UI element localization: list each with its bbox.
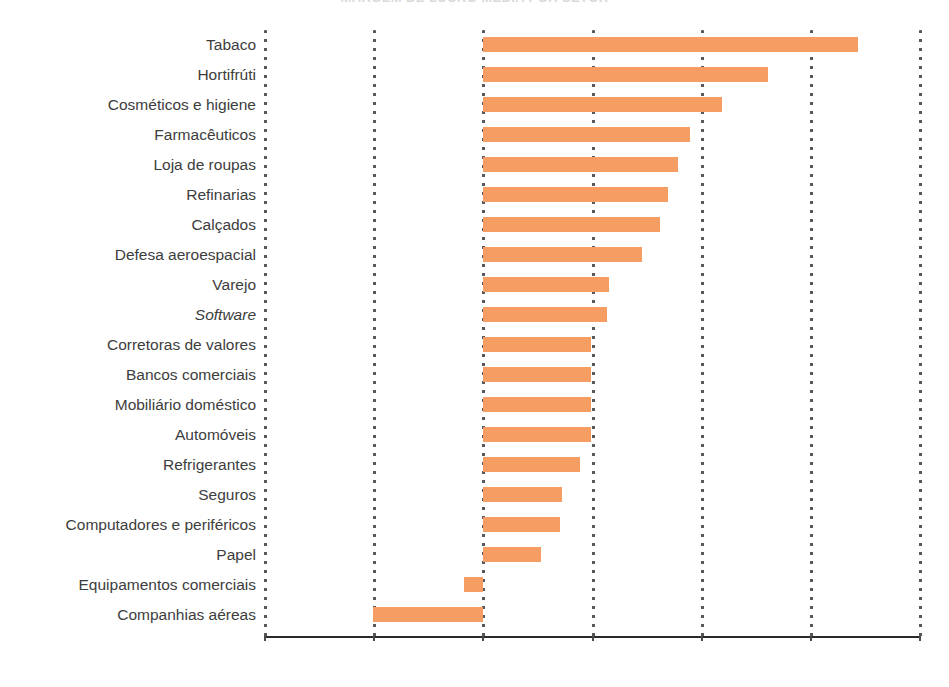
- bar: [483, 97, 722, 112]
- y-axis-label: Corretoras de valores: [0, 330, 256, 360]
- y-axis-label: Cosméticos e higiene: [0, 90, 256, 120]
- y-axis-label: Mobiliário doméstico: [0, 390, 256, 420]
- y-axis-label: Companhias aéreas: [0, 600, 256, 630]
- bar: [483, 427, 591, 442]
- bar-row: [265, 180, 920, 210]
- y-axis-label: Farmacêuticos: [0, 120, 256, 150]
- x-axis-tick-5: [810, 636, 812, 641]
- y-axis-label: Defesa aeroespacial: [0, 240, 256, 270]
- bar: [483, 397, 591, 412]
- y-axis-label: Tabaco: [0, 30, 256, 60]
- bar-rows: [265, 30, 920, 637]
- bar-row: [265, 540, 920, 570]
- bar: [483, 457, 580, 472]
- bar-row: [265, 30, 920, 60]
- bar-row: [265, 360, 920, 390]
- bar: [483, 307, 606, 322]
- bar: [373, 607, 483, 622]
- y-axis-label: Loja de roupas: [0, 150, 256, 180]
- bar: [483, 547, 541, 562]
- y-axis-label: Bancos comerciais: [0, 360, 256, 390]
- bar: [483, 37, 857, 52]
- bar-row: [265, 150, 920, 180]
- bar: [483, 517, 559, 532]
- bar-row: [265, 60, 920, 90]
- x-axis-tick-1: [373, 636, 375, 641]
- y-axis-label: Calçados: [0, 210, 256, 240]
- y-axis-category-labels: TabacoHortifrútiCosméticos e higieneFarm…: [0, 30, 256, 637]
- y-axis-label: Hortifrúti: [0, 60, 256, 90]
- bar: [483, 487, 562, 502]
- x-axis-tick-2: [482, 636, 484, 641]
- x-axis-tick-3: [592, 636, 594, 641]
- bar: [483, 217, 660, 232]
- bar-row: [265, 450, 920, 480]
- bar: [483, 187, 667, 202]
- bar-row: [265, 330, 920, 360]
- bar-row: [265, 570, 920, 600]
- bar: [483, 277, 609, 292]
- bar-row: [265, 210, 920, 240]
- bar-row: [265, 120, 920, 150]
- y-axis-label: Software: [0, 300, 256, 330]
- x-axis-tick-4: [701, 636, 703, 641]
- x-axis-tick-6: [919, 636, 921, 641]
- bar-row: [265, 90, 920, 120]
- x-axis-tick-0: [264, 636, 266, 641]
- bar-row: [265, 390, 920, 420]
- bar: [483, 157, 677, 172]
- y-axis-label: Refinarias: [0, 180, 256, 210]
- y-axis-label: Refrigerantes: [0, 450, 256, 480]
- bar: [483, 127, 689, 142]
- bar-row: [265, 240, 920, 270]
- chart-title: MARGEM DE LUCRO MEDIA POR SETOR: [0, 0, 949, 2]
- y-axis-label: Equipamentos comerciais: [0, 570, 256, 600]
- bar-row: [265, 300, 920, 330]
- bar: [464, 577, 484, 592]
- bar-row: [265, 510, 920, 540]
- chart-figure: MARGEM DE LUCRO MEDIA POR SETOR TabacoHo…: [0, 0, 949, 687]
- bar-row: [265, 420, 920, 450]
- bar: [483, 67, 768, 82]
- bar: [483, 367, 591, 382]
- y-axis-label: Papel: [0, 540, 256, 570]
- bar-row: [265, 270, 920, 300]
- y-axis-label: Varejo: [0, 270, 256, 300]
- plot-area: [265, 30, 920, 637]
- bar-row: [265, 600, 920, 630]
- bar-row: [265, 480, 920, 510]
- y-axis-label: Computadores e periféricos: [0, 510, 256, 540]
- bar: [483, 337, 591, 352]
- bar: [483, 247, 641, 262]
- y-axis-label: Automóveis: [0, 420, 256, 450]
- y-axis-label: Seguros: [0, 480, 256, 510]
